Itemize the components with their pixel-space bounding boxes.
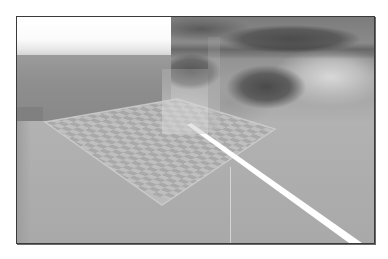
scene-viewport[interactable] bbox=[16, 16, 375, 244]
translucent-panel bbox=[162, 69, 208, 134]
guide-line bbox=[230, 167, 231, 243]
translucent-panel-edge bbox=[208, 37, 220, 129]
